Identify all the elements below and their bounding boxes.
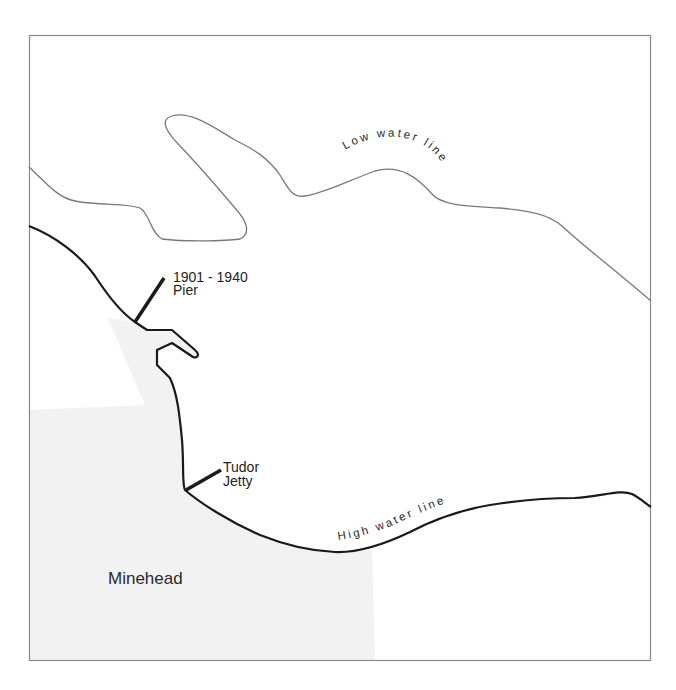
low-water-line-textpath: Low water line [340, 126, 451, 165]
pier-name-label: Pier [173, 282, 198, 298]
low-water-line [29, 115, 651, 301]
high-water-line-textpath: High water line [336, 493, 447, 542]
pier-marker [135, 278, 164, 322]
low-water-line-label: Low water line [340, 126, 451, 165]
jetty-marker [186, 470, 221, 490]
town-label: Minehead [108, 569, 183, 588]
map-canvas: 1901 - 1940 Pier Tudor Jetty Minehead Lo… [0, 0, 676, 690]
high-water-line-label: High water line [336, 493, 447, 542]
jetty-label-line2: Jetty [223, 473, 253, 489]
town-area [29, 318, 375, 661]
